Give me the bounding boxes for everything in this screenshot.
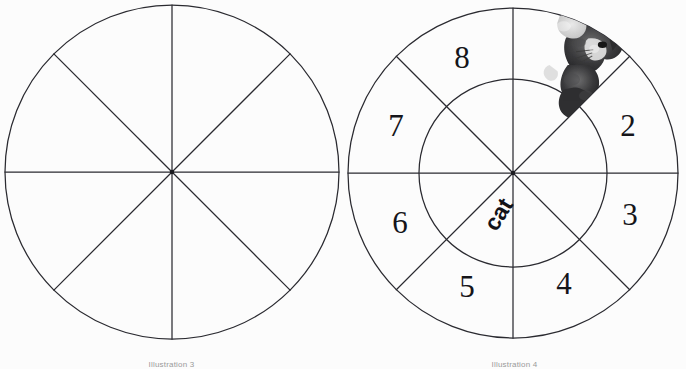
figure-illustration-4: 2 3 4 5 6 7 8 cat Illustration 4 (343, 0, 686, 369)
sector-label-5: 5 (459, 271, 475, 302)
center-dot (511, 171, 515, 175)
sector-label-8: 8 (454, 42, 470, 73)
radius-225 (54, 172, 172, 290)
blank-fraction-circle (0, 0, 343, 352)
sector-label-3: 3 (622, 199, 638, 230)
sector-label-4: 4 (556, 268, 572, 299)
caption-illustration-4: Illustration 4 (343, 360, 686, 369)
radius-315 (54, 54, 172, 172)
figure-illustration-3: Illustration 3 (0, 0, 343, 369)
sector-label-2: 2 (620, 110, 636, 141)
worksheet-page: Illustration 3 (0, 0, 686, 369)
sector-label-6: 6 (392, 207, 408, 238)
sector-label-7: 7 (388, 110, 404, 141)
radius-45 (172, 54, 290, 172)
labelled-fraction-circle (343, 0, 686, 352)
cat-photo-icon (544, 13, 625, 120)
center-dot (170, 170, 174, 174)
radius-135 (172, 172, 290, 290)
caption-illustration-3: Illustration 3 (0, 360, 343, 369)
